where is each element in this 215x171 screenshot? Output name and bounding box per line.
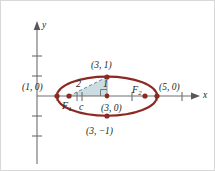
y-axis-arrowhead [34,21,41,30]
label-covertex-top: (3, 1) [91,61,112,71]
label-vertex-right: (5, 0) [159,83,180,93]
label-vertex-left: (1, 0) [22,83,43,93]
focus-2-subscript: 2 [138,89,141,96]
label-hypotenuse-length: 2 [76,79,81,89]
point-vertex-left [54,93,59,98]
y-axis-label: y [42,21,46,31]
point-covertex-bottom [104,113,109,118]
label-focus-2: F2 [132,85,142,95]
label-covertex-bottom: (3, −1) [86,127,113,137]
ellipse-figure: (1, 0) (5, 0) (3, 1) (3, −1) (3, 0) F1 F… [0,0,215,171]
label-center-point: (3, 0) [101,104,122,114]
x-axis-label: x [203,91,207,101]
point-vertex-right [154,93,159,98]
label-vertical-leg-length: 1 [103,79,108,89]
point-focus-1 [66,93,71,98]
point-center [105,94,110,99]
label-focus-1: F1 [62,101,72,111]
x-axis-arrowhead [191,93,200,100]
focus-1-subscript: 1 [68,105,71,112]
point-focus-2 [142,93,147,98]
label-base-leg-c: c [79,102,83,112]
